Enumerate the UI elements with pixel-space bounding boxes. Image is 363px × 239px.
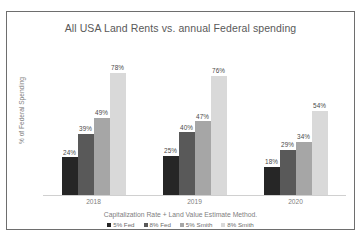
bar-value-label: 76% (212, 68, 225, 74)
bar-rect[interactable] (264, 167, 280, 195)
bar-rect[interactable] (94, 118, 110, 195)
chart-container: All USA Land Rents vs. annual Federal sp… (6, 11, 355, 230)
legend-item-3[interactable]: 8% Smith (221, 221, 253, 228)
bar-2018-series-3[interactable]: 78% (110, 48, 126, 195)
bar-2020-series-2[interactable]: 34% (296, 48, 312, 195)
bar-value-label: 78% (111, 65, 124, 71)
bar-rect[interactable] (211, 76, 227, 195)
bar-2018-series-0[interactable]: 24% (62, 48, 78, 195)
legend-label: 5% Smith (186, 221, 212, 228)
bar-2020-series-3[interactable]: 54% (312, 48, 328, 195)
x-tick-label-2020: 2020 (245, 198, 346, 205)
bar-2020-series-1[interactable]: 29% (280, 48, 296, 195)
legend-swatch-icon (107, 223, 111, 227)
bar-2020-series-0[interactable]: 18% (264, 48, 280, 195)
bar-value-label: 29% (281, 142, 294, 148)
x-axis-line (43, 195, 346, 196)
bar-value-label: 49% (95, 110, 108, 116)
bar-2019-series-0[interactable]: 25% (163, 48, 179, 195)
bar-group-2019: 25%40%47%76% (144, 48, 245, 195)
y-axis-title: % of Federal Spending (18, 61, 25, 161)
bar-rect[interactable] (62, 157, 78, 195)
x-tick-label-2018: 2018 (43, 198, 144, 205)
bar-value-label: 54% (313, 103, 326, 109)
bar-2018-series-2[interactable]: 49% (94, 48, 110, 195)
x-axis-tick-labels: 201820192020 (43, 198, 346, 210)
bar-rect[interactable] (110, 73, 126, 195)
legend-item-1[interactable]: 8% Fed (144, 221, 171, 228)
bar-rect[interactable] (312, 111, 328, 195)
chart-title: All USA Land Rents vs. annual Federal sp… (7, 22, 354, 34)
bar-value-label: 34% (297, 134, 310, 140)
legend-swatch-icon (180, 223, 184, 227)
legend-item-2[interactable]: 5% Smith (180, 221, 212, 228)
x-axis-title: Capitalization Rate + Land Value Estimat… (7, 211, 354, 218)
bar-value-label: 39% (79, 126, 92, 132)
bar-2019-series-1[interactable]: 40% (179, 48, 195, 195)
legend-label: 8% Fed (150, 221, 171, 228)
bar-rect[interactable] (195, 121, 211, 195)
legend-swatch-icon (221, 223, 225, 227)
bar-rect[interactable] (78, 134, 94, 195)
bar-group-2018: 24%39%49%78% (43, 48, 144, 195)
bar-value-label: 24% (63, 150, 76, 156)
legend-label: 5% Fed (113, 221, 134, 228)
bar-value-label: 18% (265, 159, 278, 165)
legend-label: 8% Smith (227, 221, 253, 228)
legend-swatch-icon (144, 223, 148, 227)
plot-area: 24%39%49%78%25%40%47%76%18%29%34%54% (43, 48, 346, 195)
bar-rect[interactable] (179, 132, 195, 195)
bar-2019-series-2[interactable]: 47% (195, 48, 211, 195)
chart-legend: 5% Fed8% Fed5% Smith8% Smith (7, 221, 354, 228)
bar-rect[interactable] (163, 156, 179, 195)
legend-item-0[interactable]: 5% Fed (107, 221, 134, 228)
x-tick-label-2019: 2019 (144, 198, 245, 205)
bar-rect[interactable] (280, 150, 296, 195)
bar-rect[interactable] (296, 142, 312, 195)
bar-2019-series-3[interactable]: 76% (211, 48, 227, 195)
bar-2018-series-1[interactable]: 39% (78, 48, 94, 195)
bar-value-label: 47% (196, 114, 209, 120)
bar-group-2020: 18%29%34%54% (245, 48, 346, 195)
bar-value-label: 25% (164, 148, 177, 154)
bar-value-label: 40% (180, 125, 193, 131)
